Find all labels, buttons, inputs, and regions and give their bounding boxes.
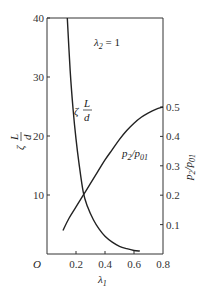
svg-text:ζ: ζ [14,144,27,150]
y-left-tick-label: 30 [33,71,45,83]
y-right-tick-label: 0.2 [166,189,180,201]
y-right-tick-label: 0.4 [166,130,180,142]
axis-ticks: O0.20.40.60.8102030400.10.20.30.40.5 [33,12,180,270]
y-left-tick-label: 40 [33,12,45,24]
y-left-tick-label: 20 [33,130,45,142]
y-right-tick-label: 0.5 [166,101,180,113]
svg-text:d: d [21,134,33,140]
svg-text:L: L [83,97,90,109]
data-series [63,18,163,251]
zeta-curve-label: ζ L d [74,97,92,123]
chart: O0.20.40.60.8102030400.10.20.30.40.5 λ2 … [0,0,202,289]
y-right-tick-label: 0.3 [166,160,180,172]
x-tick-label: 0.6 [127,258,141,270]
svg-text:L: L [8,134,20,141]
x-axis-label: λ1 [97,273,107,288]
svg-text:ζ: ζ [74,105,80,118]
y-left-tick-label: 10 [33,189,45,201]
svg-text:p2/p01: p2/p01 [182,154,197,181]
series-line [63,107,163,230]
annotation-lambda2: λ2 = 1 [93,36,120,51]
left-axis-label: ζ L d [8,132,33,150]
x-tick-label: O [33,258,41,270]
x-tick-label: 0.4 [98,258,112,270]
p-curve-label: p2/p01 [121,147,148,162]
x-tick-label: 0.2 [69,258,83,270]
plot-frame [47,18,163,254]
right-axis-label: p2/p01 [182,154,197,181]
x-tick-label: 0.8 [156,258,170,270]
y-right-tick-label: 0.1 [166,219,180,231]
svg-text:d: d [84,111,90,123]
series-line [67,18,140,251]
